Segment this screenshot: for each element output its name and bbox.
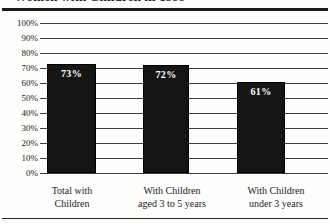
x-axis-category-label: With Childrenunder 3 years (228, 184, 324, 210)
footer-rule (2, 218, 328, 219)
bar-value-label: 61% (238, 86, 284, 97)
bar: 61% (237, 82, 285, 174)
x-axis-category-line: under 3 years (228, 197, 324, 210)
bar-value-label: 73% (48, 68, 95, 79)
x-axis-category-line: Total with (30, 184, 114, 197)
bar: 73% (47, 64, 96, 174)
chart-title-strip: Women with Children in 1999 (0, 0, 330, 7)
x-axis-category-label: Total withChildren (30, 184, 114, 210)
bar: 72% (143, 65, 189, 173)
chart-figure: Women with Children in 1999 100%90%80%70… (0, 0, 330, 224)
header-rule (2, 8, 328, 11)
x-axis-category-line: With Children (118, 184, 226, 197)
x-axis-labels: Total withChildrenWith Childrenaged 3 to… (0, 184, 330, 214)
x-axis-category-line: With Children (228, 184, 324, 197)
bars-layer: 73%72%61% (0, 18, 330, 180)
x-axis-category-label: With Childrenaged 3 to 5 years (118, 184, 226, 210)
bar-value-label: 72% (144, 69, 188, 80)
x-axis-category-line: aged 3 to 5 years (118, 197, 226, 210)
x-axis-category-line: Children (30, 197, 114, 210)
chart-title: Women with Children in 1999 (14, 0, 186, 5)
